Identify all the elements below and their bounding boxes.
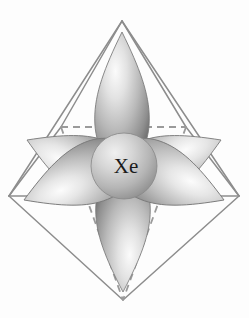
central-atom: Xe	[91, 133, 157, 199]
xenon-symbol-label: Xe	[114, 154, 139, 178]
octahedron-orbital-svg: Xe	[0, 0, 249, 318]
orbital-diagram-figure: Xe	[0, 0, 249, 318]
